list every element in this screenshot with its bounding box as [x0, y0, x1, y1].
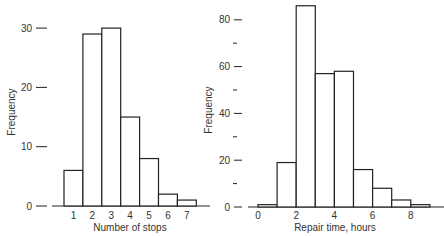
- x-tick-label: 6: [370, 210, 376, 221]
- histogram-bar: [354, 170, 373, 207]
- histogram-bar: [83, 34, 102, 206]
- histogram-bar: [177, 200, 196, 206]
- x-tick-label: 1: [71, 210, 77, 221]
- x-tick-label: 2: [293, 210, 299, 221]
- x-tick-label: 4: [332, 210, 338, 221]
- histogram-bar: [315, 74, 334, 207]
- x-tick-label: 4: [127, 210, 133, 221]
- histogram-bar: [258, 205, 277, 207]
- histogram-bar: [102, 28, 121, 206]
- stops-histogram: 01020301234567Number of stopsFrequency: [6, 23, 210, 233]
- histogram-bar: [392, 200, 411, 207]
- histogram-bar: [296, 6, 315, 207]
- histogram-bar: [140, 159, 159, 206]
- y-tick-label: 40: [219, 108, 231, 119]
- y-tick-label: 10: [21, 141, 33, 152]
- y-tick-label: 20: [21, 82, 33, 93]
- x-tick-label: 2: [90, 210, 96, 221]
- y-tick-label: 30: [21, 23, 33, 34]
- y-tick-label: 20: [219, 155, 231, 166]
- y-tick-label: 60: [219, 61, 231, 72]
- histogram-bar: [159, 194, 178, 206]
- y-tick-label: 0: [224, 202, 230, 213]
- x-axis-label: Number of stops: [93, 222, 166, 233]
- histogram-bar: [64, 170, 83, 206]
- x-tick-label: 3: [108, 210, 114, 221]
- y-axis-label: Frequency: [6, 88, 17, 135]
- x-tick-label: 7: [184, 210, 190, 221]
- x-tick-label: 8: [408, 210, 414, 221]
- x-tick-label: 5: [146, 210, 152, 221]
- x-tick-label: 0: [255, 210, 261, 221]
- histogram-bar: [373, 188, 392, 207]
- repair-time-histogram: 02040608002468Repair time, hoursFrequenc…: [203, 6, 444, 233]
- histogram-bar: [121, 117, 140, 206]
- x-tick-label: 6: [165, 210, 171, 221]
- y-axis-label: Frequency: [203, 86, 214, 133]
- histogram-figure: 01020301234567Number of stopsFrequency02…: [0, 0, 444, 236]
- x-axis-label: Repair time, hours: [294, 222, 376, 233]
- y-tick-label: 0: [26, 201, 32, 212]
- histogram-bar: [411, 205, 430, 207]
- histogram-bar: [277, 163, 296, 207]
- histogram-bar: [334, 71, 353, 207]
- y-tick-label: 80: [219, 14, 231, 25]
